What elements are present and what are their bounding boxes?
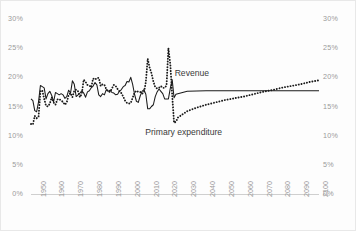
series-layer <box>31 48 319 124</box>
annotation-revenue: Revenue <box>175 69 209 78</box>
x-tick-label: 2090 <box>303 181 310 197</box>
x-tick-label: 2000 <box>134 181 141 197</box>
y-tick-left: 5% <box>1 161 27 169</box>
y-tick-label-right: 20% <box>323 73 338 80</box>
y-tick-left: 10% <box>1 132 27 140</box>
y-tick-label-left: 30% <box>8 15 23 22</box>
x-tick-label: 1990 <box>115 181 122 197</box>
y-tick-label-right: 30% <box>323 15 338 22</box>
x-tick-label: 2040 <box>209 181 216 197</box>
plot-area <box>31 19 319 194</box>
y-tick-right: 30% <box>323 15 349 23</box>
y-tick-label-left: 5% <box>12 161 23 168</box>
y-tick-label-right: 10% <box>323 132 338 139</box>
x-tick-label: 1970 <box>77 181 84 197</box>
y-tick-label-left: 20% <box>8 73 23 80</box>
x-tick-label: 2010 <box>153 181 160 197</box>
y-tick-left: 30% <box>1 15 27 23</box>
x-tick-label: 2020 <box>171 181 178 197</box>
y-tick-left: 25% <box>1 44 27 52</box>
chart-container: Revenue Primary expenditure 30%30%25%25%… <box>0 0 356 231</box>
plot-svg <box>31 19 319 194</box>
y-tick-label-right: 5% <box>323 161 334 168</box>
y-tick-label-left: 15% <box>8 103 23 110</box>
y-tick-left: 20% <box>1 73 27 81</box>
y-tick-label-right: 25% <box>323 44 338 51</box>
x-tick-label: 2050 <box>228 181 235 197</box>
x-tick-label: 2100 <box>322 181 329 197</box>
x-tick-label: 2060 <box>247 181 254 197</box>
x-tick-label: 1950 <box>40 181 47 197</box>
x-tick-label: 2080 <box>284 181 291 197</box>
annotation-primary-expenditure: Primary expenditure <box>145 128 222 137</box>
x-tick-label: 2070 <box>266 181 273 197</box>
y-tick-left: 15% <box>1 103 27 111</box>
y-tick-left: 0% <box>1 190 27 198</box>
x-tick-label: 1960 <box>58 181 65 197</box>
y-tick-label-left: 25% <box>8 44 23 51</box>
y-tick-label-left: 10% <box>8 132 23 139</box>
series-line-revenue <box>31 77 319 111</box>
y-tick-right: 15% <box>323 103 349 111</box>
y-tick-right: 25% <box>323 44 349 52</box>
x-tick-label: 2030 <box>190 181 197 197</box>
y-tick-right: 10% <box>323 132 349 140</box>
y-tick-right: 20% <box>323 73 349 81</box>
y-tick-label-right: 15% <box>323 103 338 110</box>
y-tick-label-left: 0% <box>12 190 23 197</box>
y-tick-right: 5% <box>323 161 349 169</box>
x-tick-label: 1980 <box>96 181 103 197</box>
